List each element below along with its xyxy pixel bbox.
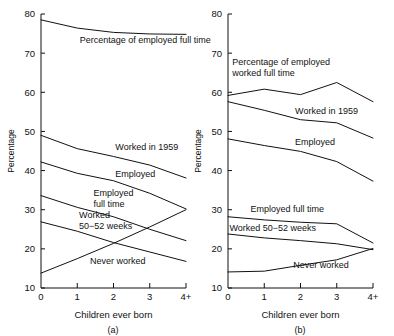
y-axis-title-a: Percentage bbox=[6, 129, 16, 173]
series-label-b-3: Employed full time bbox=[250, 204, 324, 214]
series-line-b-0 bbox=[228, 83, 373, 102]
series-line-a-0 bbox=[41, 20, 186, 34]
y-tick-label-a-4: 50 bbox=[24, 126, 35, 137]
y-tick-label-b-1: 20 bbox=[211, 243, 222, 254]
y-tick-label-a-0: 10 bbox=[24, 282, 35, 293]
y-tick-label-a-5: 60 bbox=[24, 87, 35, 98]
series-label-b-5: Never worked bbox=[293, 260, 349, 270]
y-tick-label-b-7: 80 bbox=[211, 8, 222, 19]
two-panel-line-chart: 102030405060708001234+Percentage of empl… bbox=[0, 0, 394, 336]
series-label-a-5: Never worked bbox=[90, 256, 146, 266]
x-tick-label-a-0: 0 bbox=[38, 291, 43, 302]
y-tick-label-b-2: 30 bbox=[211, 204, 222, 215]
x-tick-label-b-0: 0 bbox=[225, 291, 230, 302]
x-tick-label-a-1: 1 bbox=[75, 291, 80, 302]
series-label-a-3: Employedfull time bbox=[94, 188, 134, 209]
x-axis-title-b: Children ever born bbox=[261, 309, 339, 320]
y-tick-label-a-1: 20 bbox=[24, 243, 35, 254]
x-tick-label-a-3: 3 bbox=[147, 291, 152, 302]
series-label-b-0: Percentage of employedworked full time bbox=[231, 57, 330, 78]
y-tick-label-b-6: 70 bbox=[211, 48, 222, 59]
y-tick-label-b-3: 40 bbox=[211, 165, 222, 176]
x-tick-label-b-2: 2 bbox=[298, 291, 303, 302]
series-label-a-2: Employed bbox=[115, 169, 155, 179]
series-label-b-2: Employed bbox=[295, 137, 335, 147]
series-label-a-4: Worked50−52 weeks bbox=[79, 210, 133, 231]
y-tick-label-b-4: 50 bbox=[211, 126, 222, 137]
y-tick-label-b-5: 60 bbox=[211, 87, 222, 98]
x-tick-label-b-4: 4+ bbox=[368, 291, 379, 302]
x-tick-label-a-4: 4+ bbox=[181, 291, 192, 302]
x-tick-label-a-2: 2 bbox=[111, 291, 116, 302]
panel-a: 102030405060708001234+Percentage of empl… bbox=[6, 8, 211, 335]
panel-caption-b: (b) bbox=[295, 325, 306, 335]
series-line-b-4 bbox=[228, 234, 373, 250]
y-tick-label-a-2: 30 bbox=[24, 204, 35, 215]
y-tick-label-b-0: 10 bbox=[211, 282, 222, 293]
x-tick-label-b-3: 3 bbox=[334, 291, 339, 302]
y-axis-title-b: Percentage bbox=[193, 129, 203, 173]
panel-caption-a: (a) bbox=[108, 325, 119, 335]
series-label-b-1: Worked in 1959 bbox=[295, 106, 358, 116]
y-tick-label-a-6: 70 bbox=[24, 48, 35, 59]
series-label-a-1: Worked in 1959 bbox=[115, 142, 178, 152]
y-tick-label-a-7: 80 bbox=[24, 8, 35, 19]
series-label-b-4: Worked 50−52 weeks bbox=[229, 223, 316, 233]
y-tick-label-a-3: 40 bbox=[24, 165, 35, 176]
figure-container: 102030405060708001234+Percentage of empl… bbox=[0, 0, 394, 336]
x-tick-label-b-1: 1 bbox=[262, 291, 267, 302]
x-axis-title-a: Children ever born bbox=[74, 309, 152, 320]
series-label-a-0: Percentage of employed full time bbox=[80, 35, 211, 45]
panel-b: 102030405060708001234+Percentage of empl… bbox=[193, 8, 379, 335]
